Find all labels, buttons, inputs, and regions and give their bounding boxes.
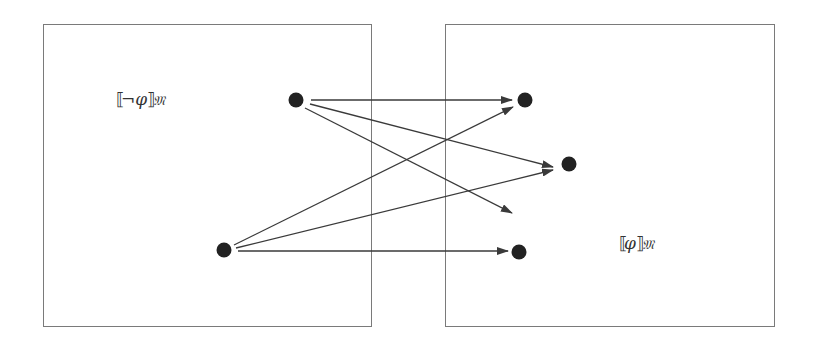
world-node-d: [562, 157, 577, 172]
world-node-c: [518, 93, 533, 108]
arrow-edge-from-a: [305, 108, 512, 213]
world-nodes: [217, 93, 577, 260]
relation-graph: [0, 0, 814, 343]
world-node-b: [217, 243, 232, 258]
arrow-edge-from-b: [234, 107, 513, 245]
arrow-edges: [234, 100, 553, 251]
world-node-e: [512, 245, 527, 260]
arrow-edge-from-a: [310, 104, 553, 167]
world-node-a: [289, 93, 304, 108]
diagram-canvas: ⟦¬φ⟧𝔐 ⟦φ⟧𝔐: [0, 0, 814, 343]
